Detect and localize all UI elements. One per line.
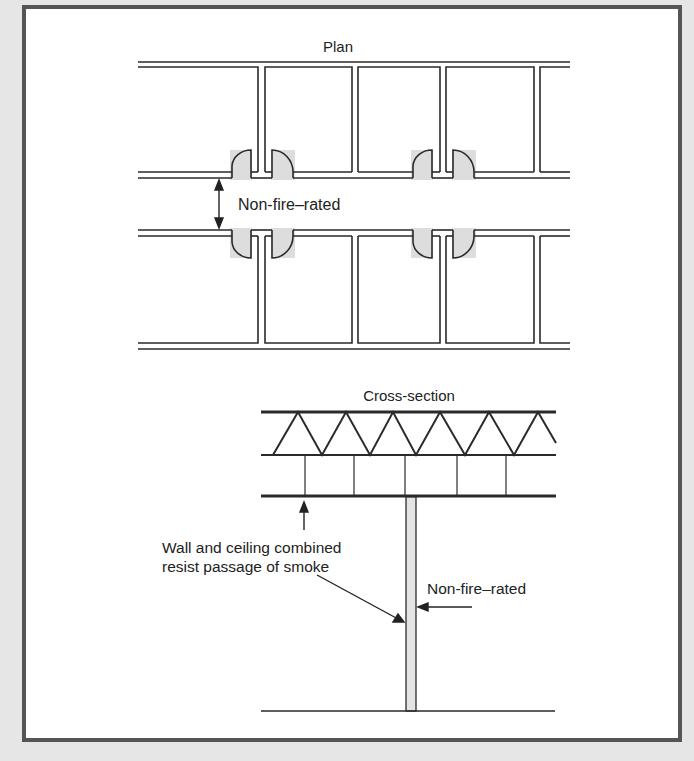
ceiling-label-line1: Wall and ceiling combined [162, 539, 342, 556]
diagram-canvas: Plan Non-fire–rated Cross-section Wall a [0, 0, 694, 761]
ceiling-arrow-icon [300, 502, 308, 530]
ceiling-label-line2: resist passage of smoke [162, 558, 329, 575]
partition-wall [406, 497, 416, 711]
smoke-resist-arrow-icon [317, 575, 404, 622]
plan-title: Plan [323, 38, 353, 55]
corridor-width-arrow-icon [215, 180, 223, 228]
wall-label-arrow-icon [418, 603, 472, 611]
wall-label: Non-fire–rated [427, 580, 526, 597]
cross-section-title: Cross-section [363, 387, 455, 404]
corridor-label: Non-fire–rated [238, 196, 340, 213]
plan-view [138, 62, 570, 349]
truss-web [273, 412, 556, 455]
